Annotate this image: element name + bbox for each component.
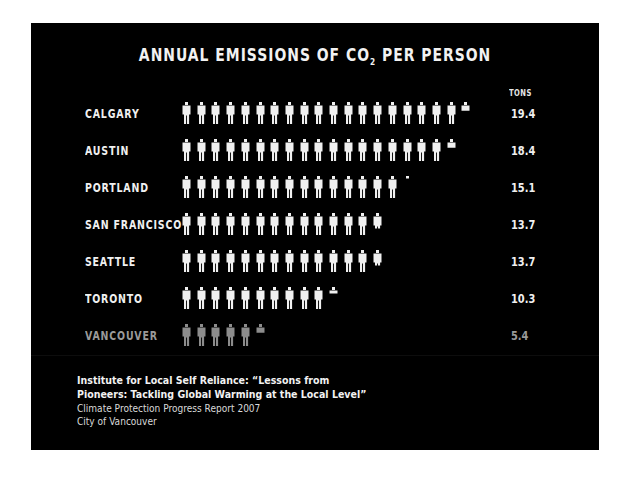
person-icon (240, 287, 251, 309)
person-icon (387, 176, 398, 198)
person-icon (210, 324, 221, 346)
person-icon (210, 250, 221, 272)
person-icon (210, 287, 221, 309)
person-icon (313, 139, 324, 161)
person-icon (402, 139, 413, 161)
person-icon (372, 176, 383, 198)
person-icon (299, 287, 310, 309)
person-icon (269, 139, 280, 161)
person-icon (269, 213, 280, 235)
person-icon (210, 176, 221, 198)
person-icon (196, 213, 207, 235)
person-icon (446, 102, 457, 124)
person-icon (225, 287, 236, 309)
person-icon (284, 176, 295, 198)
person-icon (225, 324, 236, 346)
person-icon (240, 139, 251, 161)
source-line-2: Pioneers: Tackling Global Warming at the… (77, 388, 366, 402)
person-icon (328, 213, 339, 235)
person-icon (196, 287, 207, 309)
person-icon (343, 102, 354, 124)
unit-label: TONS (509, 89, 532, 98)
person-icon (181, 287, 192, 309)
person-icon (357, 250, 368, 272)
value-label: 5.4 (511, 329, 528, 343)
person-icon (225, 102, 236, 124)
person-icon (284, 139, 295, 161)
person-icon (284, 287, 295, 309)
person-icon (225, 250, 236, 272)
person-icon (269, 176, 280, 198)
value-label: 10.3 (511, 292, 535, 306)
person-icon (181, 324, 192, 346)
person-icon (240, 250, 251, 272)
source-line-3: Climate Protection Progress Report 2007 (77, 402, 366, 415)
city-label: TORONTO (85, 292, 143, 306)
person-icon (255, 139, 266, 161)
person-icon (255, 287, 266, 309)
person-icon (210, 139, 221, 161)
person-icon (225, 213, 236, 235)
person-icon (284, 102, 295, 124)
chart-row: AUSTIN18.4 (31, 136, 599, 166)
chart-row: TORONTO10.3 (31, 284, 599, 314)
person-icon (357, 213, 368, 235)
person-icon (313, 213, 324, 235)
person-icon (343, 139, 354, 161)
person-icon (196, 102, 207, 124)
value-label: 13.7 (511, 255, 535, 269)
partial-person-icon (328, 287, 339, 309)
person-icon (225, 176, 236, 198)
person-icon (225, 139, 236, 161)
person-icon (416, 102, 427, 124)
person-icon (313, 102, 324, 124)
person-icon (416, 139, 427, 161)
partial-person-icon (446, 139, 457, 161)
person-icon (255, 250, 266, 272)
person-icon (357, 176, 368, 198)
person-icon (240, 213, 251, 235)
person-icon (196, 324, 207, 346)
person-icon (196, 176, 207, 198)
person-icon (240, 324, 251, 346)
person-icon (299, 250, 310, 272)
separator (31, 355, 599, 356)
person-icon (343, 250, 354, 272)
partial-person-icon (460, 102, 471, 124)
value-label: 18.4 (511, 144, 535, 158)
person-icon (240, 102, 251, 124)
person-icon (357, 102, 368, 124)
city-label: SAN FRANCISCO (85, 218, 182, 232)
source-citation: Institute for Local Self Reliance: “Less… (77, 374, 366, 428)
person-icon (181, 139, 192, 161)
person-icon (255, 102, 266, 124)
person-icon (328, 250, 339, 272)
person-icon (299, 213, 310, 235)
partial-person-icon (372, 250, 383, 272)
person-icon (299, 102, 310, 124)
person-icon (402, 102, 413, 124)
person-icon (299, 176, 310, 198)
person-icon (372, 102, 383, 124)
chart-row: VANCOUVER5.4 (31, 321, 599, 351)
person-icon (328, 102, 339, 124)
infographic-panel: ANNUAL EMISSIONS OF CO2 PER PERSON TONS … (31, 23, 599, 450)
person-icon (240, 176, 251, 198)
person-icon (269, 250, 280, 272)
partial-person-icon (372, 213, 383, 235)
person-icon (328, 176, 339, 198)
person-icon (196, 250, 207, 272)
person-icon (181, 176, 192, 198)
person-icon (328, 139, 339, 161)
person-icon (210, 213, 221, 235)
person-icon (255, 213, 266, 235)
person-icon (343, 176, 354, 198)
person-icon (313, 250, 324, 272)
partial-person-icon (402, 176, 413, 198)
person-icon (284, 250, 295, 272)
value-label: 15.1 (511, 181, 535, 195)
person-icon (210, 102, 221, 124)
city-label: AUSTIN (85, 144, 129, 158)
person-icon (357, 139, 368, 161)
chart-row: SEATTLE13.7 (31, 247, 599, 277)
